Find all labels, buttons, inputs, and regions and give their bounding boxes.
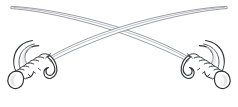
background-rect (0, 0, 238, 107)
crossed-sabers-illustration: Crossed Sabers (0, 0, 238, 107)
saber-artwork-canvas: Crossed Sabers (0, 0, 238, 107)
